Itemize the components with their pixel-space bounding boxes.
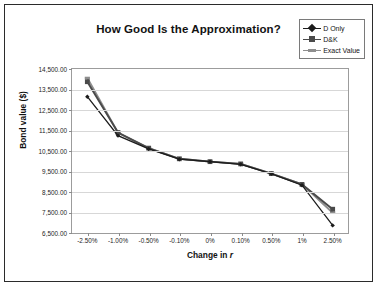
series-exact-value	[85, 77, 336, 214]
x-axis-tick-mark	[119, 233, 120, 236]
x-axis-title: Change in r	[71, 250, 349, 260]
x-axis-tick-mark	[180, 233, 181, 236]
gridline	[72, 110, 348, 111]
legend-marker-square-icon	[303, 35, 321, 44]
y-axis-tick-mark	[69, 213, 72, 214]
x-axis-title-variable: r	[230, 250, 233, 260]
legend-label: D Only	[323, 24, 344, 33]
chart-area: How Good Is the Approximation? D Only D&…	[5, 5, 372, 281]
x-axis-tick-label: -1.00%	[108, 237, 128, 245]
y-axis-tick-label: 8,500.00	[21, 189, 67, 196]
gridline	[72, 192, 348, 193]
legend-label: D&K	[323, 35, 337, 44]
x-axis-tick-label: 0%	[205, 237, 214, 245]
legend-marker-dash-icon	[303, 46, 321, 55]
x-axis-tick-mark	[303, 233, 304, 236]
x-axis-tick-label: -0.10%	[169, 237, 189, 245]
y-axis-tick-label: 6,500.00	[21, 230, 67, 237]
x-axis-tick-mark	[150, 233, 151, 236]
plot-area	[71, 68, 349, 234]
y-axis-tick-mark	[69, 131, 72, 132]
y-axis-tick-mark	[69, 172, 72, 173]
x-axis-tick-mark	[272, 233, 273, 236]
x-axis-tick-label: -2.50%	[77, 237, 97, 245]
gridline	[72, 213, 348, 214]
x-axis-title-text: Change in	[187, 250, 230, 260]
data-point-marker	[330, 207, 335, 212]
legend-item-dk[interactable]: D&K	[303, 34, 360, 44]
y-axis-tick-mark	[69, 90, 72, 91]
y-axis-tick-mark	[69, 69, 72, 70]
series-line	[87, 82, 332, 210]
gridline	[72, 131, 348, 132]
x-axis-tick-mark	[211, 233, 212, 236]
series-d-only	[85, 94, 335, 227]
y-axis-tick-mark	[69, 151, 72, 152]
x-axis-tick-label: -0.50%	[139, 237, 159, 245]
gridline	[72, 151, 348, 152]
legend-marker-diamond-icon	[303, 24, 321, 33]
chart-legend: D Only D&K Exact Value	[299, 19, 365, 59]
x-axis-tick-label: 2.50%	[324, 237, 342, 245]
y-axis-tick-mark	[69, 233, 72, 234]
y-axis-tick-mark	[69, 192, 72, 193]
chart-frame: How Good Is the Approximation? D Only D&…	[4, 4, 373, 282]
x-axis-tick-mark	[242, 233, 243, 236]
x-axis-ticks: -2.50%-1.00%-0.50%-0.10%0%0.10%0.50%1%2.…	[71, 237, 349, 249]
legend-item-d-only[interactable]: D Only	[303, 23, 360, 33]
gridline	[72, 172, 348, 173]
data-point-marker	[85, 77, 90, 80]
x-axis-tick-mark	[88, 233, 89, 236]
y-axis-tick-label: 7,500.00	[21, 209, 67, 216]
y-axis-tick-mark	[69, 110, 72, 111]
legend-item-exact-value[interactable]: Exact Value	[303, 45, 360, 55]
y-axis-title: Bond value ($)	[18, 55, 28, 185]
x-axis-tick-label: 0.10%	[232, 237, 250, 245]
gridline	[72, 90, 348, 91]
x-axis-tick-label: 0.50%	[262, 237, 280, 245]
x-axis-tick-label: 1%	[297, 237, 306, 245]
x-axis-tick-mark	[334, 233, 335, 236]
data-point-marker	[85, 79, 90, 84]
legend-label: Exact Value	[323, 46, 360, 55]
